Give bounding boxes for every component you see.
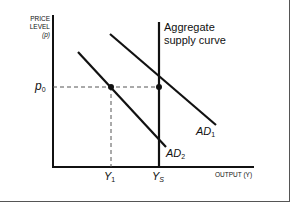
x-axis-label: OUTPUT (Y) bbox=[215, 172, 252, 179]
ad2-label: AD2 bbox=[166, 148, 185, 160]
equilibrium-point-ad2 bbox=[108, 84, 114, 90]
y1-tick-label: Y1 bbox=[104, 171, 115, 183]
equilibrium-point-ad1 bbox=[156, 84, 162, 90]
y1-sub: 1 bbox=[111, 176, 115, 183]
ad1-main: AD bbox=[196, 125, 211, 137]
aggregate-supply-label-line1: Aggregate bbox=[164, 21, 226, 34]
ad2-curve bbox=[78, 52, 166, 147]
y-axis-label-line3: (p) bbox=[20, 31, 50, 39]
y-axis-label-line1: PRICE bbox=[20, 15, 50, 23]
ys-tick-label: YS bbox=[152, 171, 164, 183]
y-axis-label-line2: LEVEL bbox=[20, 23, 50, 31]
ad1-label: AD1 bbox=[196, 126, 215, 138]
aggregate-supply-label: Aggregate supply curve bbox=[164, 21, 226, 47]
p0-sub: 0 bbox=[42, 86, 46, 93]
ys-sub: S bbox=[159, 176, 164, 183]
ad2-sub: 2 bbox=[181, 153, 185, 160]
p0-main: p bbox=[35, 79, 42, 93]
aggregate-supply-label-line2: supply curve bbox=[164, 34, 226, 47]
ad1-curve bbox=[110, 34, 216, 125]
y-axis-label: PRICE LEVEL (p) bbox=[20, 15, 50, 39]
p0-tick-label: p0 bbox=[35, 80, 46, 93]
ad2-main: AD bbox=[166, 147, 181, 159]
ad1-sub: 1 bbox=[211, 131, 215, 138]
